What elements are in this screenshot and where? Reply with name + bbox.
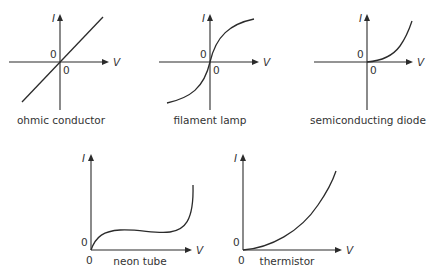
origin-label-y: 0 <box>233 236 240 248</box>
x-axis-label: V <box>196 244 204 256</box>
y-axis-arrow-icon <box>57 14 63 21</box>
y-axis-label: I <box>82 152 85 164</box>
origin-label-x: 0 <box>370 64 377 76</box>
origin-label-x: 0 <box>86 254 93 266</box>
x-axis-arrow-icon <box>406 59 413 65</box>
origin-label-y: 0 <box>200 48 207 60</box>
graph-filament-lamp: I V 0 0 filament lamp <box>159 12 271 126</box>
x-axis-label: V <box>113 56 121 68</box>
iv-characteristics-diagram: I V 0 0 ohmic conductor I V 0 0 filament… <box>0 0 437 278</box>
x-axis-arrow-icon <box>252 59 259 65</box>
origin-label-y: 0 <box>50 48 57 60</box>
origin-label-y: 0 <box>357 48 364 60</box>
iv-curve <box>243 171 336 250</box>
y-axis-label: I <box>234 152 237 164</box>
x-axis-arrow-icon <box>102 59 109 65</box>
iv-curve <box>22 17 103 102</box>
y-axis-arrow-icon <box>364 14 370 21</box>
x-axis-label: V <box>346 244 354 256</box>
graph-neon-tube: I V 0 0 neon tube <box>81 152 204 267</box>
iv-curve <box>91 185 193 250</box>
origin-label-y: 0 <box>81 236 88 248</box>
x-axis-label: V <box>263 56 271 68</box>
x-axis-arrow-icon <box>185 247 192 253</box>
graph-caption: neon tube <box>113 255 166 267</box>
x-axis-arrow-icon <box>335 247 342 253</box>
graph-caption: filament lamp <box>173 114 246 126</box>
origin-label-x: 0 <box>213 64 220 76</box>
origin-label-x: 0 <box>63 64 70 76</box>
graph-caption: thermistor <box>260 255 316 267</box>
graph-thermistor: I V 0 0 thermistor <box>233 152 354 267</box>
y-axis-label: I <box>52 12 55 24</box>
origin-label-x: 0 <box>238 254 245 266</box>
y-axis-arrow-icon <box>207 14 213 21</box>
x-axis-label: V <box>417 56 425 68</box>
y-axis-label: I <box>202 12 205 24</box>
y-axis-label: I <box>359 12 362 24</box>
y-axis-arrow-icon <box>240 154 246 161</box>
graph-ohmic-conductor: I V 0 0 ohmic conductor <box>9 12 121 126</box>
graph-semiconducting-diode: I V 0 0 semiconducting diode <box>310 12 426 126</box>
graph-caption: ohmic conductor <box>17 114 106 126</box>
graph-caption: semiconducting diode <box>310 114 426 126</box>
y-axis-arrow-icon <box>88 154 94 161</box>
iv-curve <box>367 21 412 62</box>
